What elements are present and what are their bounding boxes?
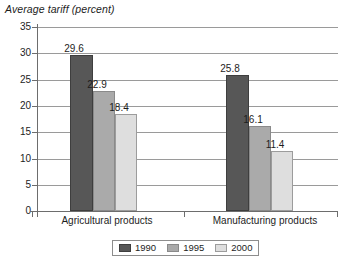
y-axis-tick-label: 25 — [3, 75, 31, 85]
x-axis-tick — [337, 211, 338, 217]
legend-label: 1995 — [183, 243, 204, 253]
y-axis-tick-label: 0 — [3, 206, 31, 216]
y-axis-tick-label: 10 — [3, 154, 31, 164]
chart-legend: 1990 1995 2000 — [112, 240, 259, 256]
legend-swatch-icon — [167, 244, 179, 252]
y-axis-tick-label: 5 — [3, 180, 31, 190]
bar-2000-agricultural[interactable] — [115, 114, 137, 211]
bar-value-label-1995-manufacturing: 16.1 — [237, 115, 269, 125]
bar-value-label-2000-agricultural: 18.4 — [103, 103, 135, 113]
gridline — [38, 27, 338, 28]
x-axis-category-label-manufacturing: Manufacturing products — [198, 215, 332, 226]
bar-value-label-2000-manufacturing: 11.4 — [259, 140, 291, 150]
bar-value-label-1990-manufacturing: 25.8 — [214, 64, 246, 74]
bar-2000-manufacturing[interactable] — [271, 151, 293, 211]
legend-label: 2000 — [231, 243, 252, 253]
y-axis-tick-labels: 35 30 25 20 15 10 5 0 — [0, 0, 31, 267]
legend-swatch-icon — [119, 244, 131, 252]
x-axis-tick — [32, 211, 33, 217]
x-axis-category-label-agricultural: Agricultural products — [42, 215, 172, 226]
legend-item-2000[interactable]: 2000 — [215, 243, 252, 253]
bar-value-label-1995-agricultural: 22.9 — [81, 80, 113, 90]
legend-item-1990[interactable]: 1990 — [119, 243, 156, 253]
legend-swatch-icon — [215, 244, 227, 252]
bar-1990-manufacturing[interactable] — [226, 75, 249, 211]
legend-item-1995[interactable]: 1995 — [167, 243, 204, 253]
legend-label: 1990 — [135, 243, 156, 253]
bar-value-label-1990-agricultural: 29.6 — [58, 44, 90, 54]
chart-figure: Average tariff (percent) 35 30 25 20 15 … — [0, 0, 344, 267]
y-axis-tick-label: 20 — [3, 101, 31, 111]
y-axis-tick-label: 35 — [3, 22, 31, 32]
y-axis-tick-label: 15 — [3, 127, 31, 137]
plot-area — [38, 27, 338, 211]
y-axis-tick-label: 30 — [3, 48, 31, 58]
x-axis-tick — [184, 211, 185, 217]
